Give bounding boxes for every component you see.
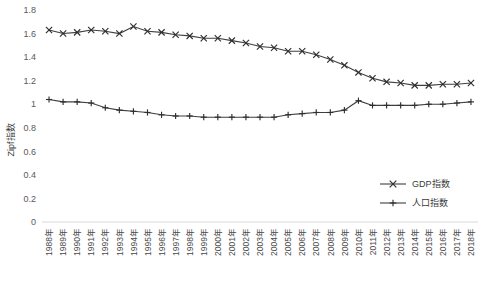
y-axis-tick-labels: 00.20.40.60.811.21.41.61.8 [23, 5, 36, 227]
y-tick-label: 0.4 [23, 170, 36, 180]
data-point-marker [383, 102, 389, 108]
data-point-marker [130, 108, 136, 114]
data-point-marker [46, 96, 52, 102]
data-point-marker [355, 69, 361, 75]
x-tick-label: 1996年 [157, 228, 167, 256]
legend-item-gdp-index[interactable]: GDP指数 [380, 178, 450, 189]
data-point-marker [440, 101, 446, 107]
x-tick-label: 2016年 [438, 228, 448, 256]
x-tick-label: 2003年 [255, 228, 265, 256]
x-tick-label: 1988年 [44, 228, 54, 256]
data-point-marker [257, 114, 263, 120]
x-tick-label: 2009年 [340, 228, 350, 256]
data-point-marker [173, 113, 179, 119]
legend-label: 人口指数 [412, 197, 448, 208]
x-tick-label: 2013年 [396, 228, 406, 256]
data-point-marker [426, 101, 432, 107]
legend-label: GDP指数 [412, 178, 450, 189]
x-tick-label: 1997年 [171, 228, 181, 256]
data-point-marker [187, 113, 193, 119]
x-tick-label: 2001年 [227, 228, 237, 256]
data-point-marker [398, 102, 404, 108]
data-point-marker [102, 105, 108, 111]
x-tick-label: 1989年 [58, 228, 68, 256]
y-tick-label: 1.8 [23, 5, 36, 15]
x-tick-label: 2006年 [297, 228, 307, 256]
data-point-marker [313, 109, 319, 115]
x-tick-label: 2002年 [241, 228, 251, 256]
x-tick-label: 1992年 [100, 228, 110, 256]
data-point-marker [299, 111, 305, 117]
data-series-layer [46, 23, 474, 120]
x-tick-label: 1995年 [143, 228, 153, 256]
data-point-marker [60, 99, 66, 105]
chart-canvas: 00.20.40.60.811.21.41.61.8 1988年1989年199… [0, 0, 484, 281]
x-tick-label: 2008年 [326, 228, 336, 256]
x-tick-label: 2007年 [311, 228, 321, 256]
data-point-marker [327, 109, 333, 115]
data-point-marker [327, 56, 333, 62]
x-tick-label: 1994年 [129, 228, 139, 256]
x-tick-label: 2005年 [283, 228, 293, 256]
data-point-marker [454, 100, 460, 106]
x-tick-label: 2000年 [213, 228, 223, 256]
data-point-marker [468, 99, 474, 105]
x-tick-label: 2010年 [354, 228, 364, 256]
y-axis-title: Zipf指数 [5, 123, 16, 156]
data-point-marker [88, 100, 94, 106]
x-tick-label: 1993年 [115, 228, 125, 256]
x-tick-label: 1990年 [72, 228, 82, 256]
plus-marker-icon [390, 200, 397, 207]
data-point-marker [412, 102, 418, 108]
series-line [49, 26, 471, 85]
x-tick-label: 2011年 [368, 228, 378, 255]
data-point-marker [130, 23, 136, 29]
x-tick-label: 1998年 [185, 228, 195, 256]
data-point-marker [215, 114, 221, 120]
data-point-marker [158, 112, 164, 118]
data-point-marker [229, 114, 235, 120]
chart-legend: GDP指数人口指数 [380, 178, 450, 208]
y-tick-label: 0.8 [23, 123, 36, 133]
y-tick-label: 1.2 [23, 76, 36, 86]
data-point-marker [116, 107, 122, 113]
data-point-marker [74, 99, 80, 105]
x-tick-label: 1991年 [86, 228, 96, 256]
series-gdp-index [46, 23, 474, 88]
y-tick-label: 0 [31, 217, 36, 227]
data-point-marker [341, 107, 347, 113]
data-point-marker [285, 112, 291, 118]
data-point-marker [369, 102, 375, 108]
data-point-marker [243, 114, 249, 120]
data-point-marker [271, 114, 277, 120]
data-point-marker [355, 98, 361, 104]
x-tick-label: 2017年 [452, 228, 462, 256]
y-tick-label: 0.6 [23, 147, 36, 157]
y-tick-label: 1 [31, 99, 36, 109]
x-tick-label: 2014年 [410, 228, 420, 256]
y-tick-label: 1.4 [23, 52, 36, 62]
x-tick-label: 2015年 [424, 228, 434, 256]
x-tick-label: 2012年 [382, 228, 392, 256]
data-point-marker [144, 109, 150, 115]
data-point-marker [201, 114, 207, 120]
legend-item-population-index[interactable]: 人口指数 [380, 197, 448, 208]
y-tick-label: 0.2 [23, 194, 36, 204]
series-population-index [46, 96, 474, 120]
x-tick-label: 2018年 [466, 228, 476, 256]
y-tick-label: 1.6 [23, 29, 36, 39]
x-axis-tick-labels: 1988年1989年1990年1991年1992年1993年1994年1995年… [44, 228, 476, 256]
data-point-marker [341, 62, 347, 68]
x-tick-label: 2004年 [269, 228, 279, 256]
x-tick-label: 1999年 [199, 228, 209, 256]
zipf-index-line-chart: 00.20.40.60.811.21.41.61.8 1988年1989年199… [0, 0, 484, 281]
